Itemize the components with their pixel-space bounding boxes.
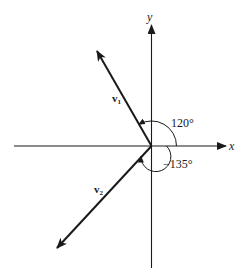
vector-diagram: y x v1 v2 120° −135°: [0, 0, 248, 279]
angle-label-neg135: −135°: [163, 157, 193, 171]
v2-arrow: [57, 146, 152, 248]
y-axis-label: y: [146, 10, 153, 24]
v1-arrow: [97, 51, 152, 146]
v2-label-sub: 2: [100, 189, 104, 197]
angle-label-120: 120°: [171, 116, 194, 130]
x-axis-label: x: [228, 139, 235, 153]
vector-v1: [97, 51, 152, 146]
vector-v2: [57, 146, 152, 248]
v1-label: v1: [112, 92, 122, 106]
diagram-svg: y x v1 v2 120° −135°: [0, 0, 248, 279]
v2-label: v2: [94, 183, 104, 197]
v1-label-sub: 1: [118, 98, 122, 106]
